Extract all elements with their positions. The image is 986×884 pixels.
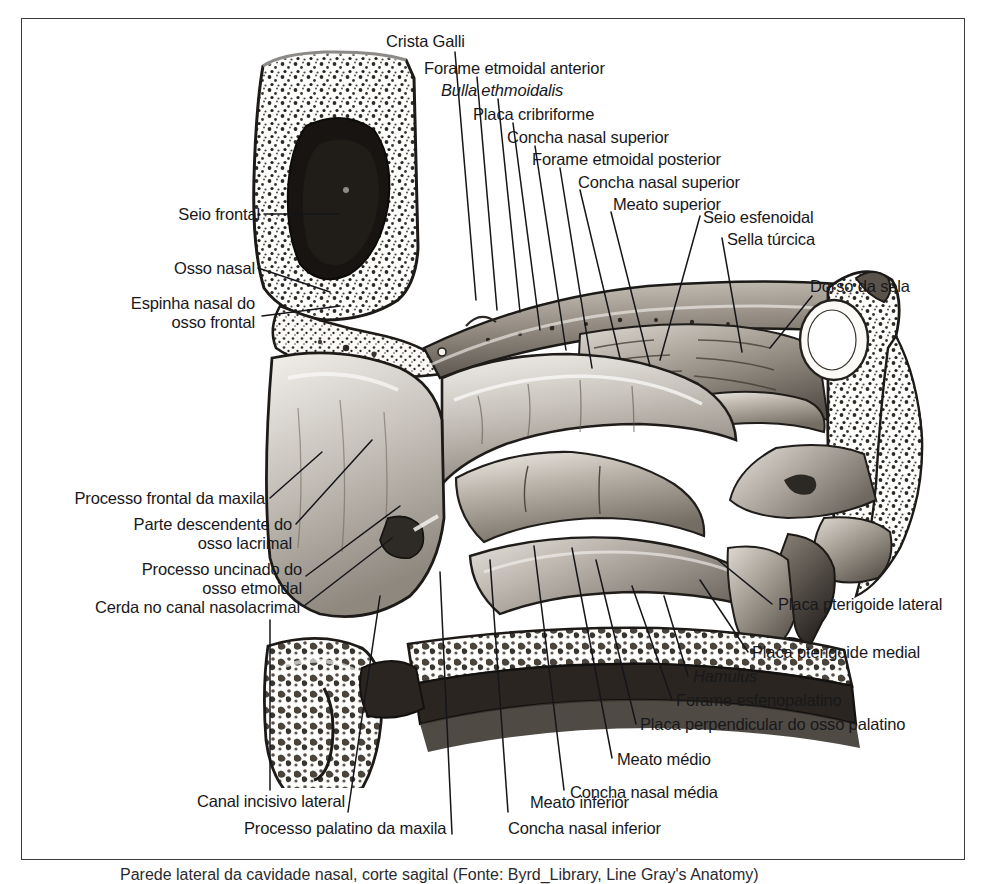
label-dorso-da-sela: Dorso da sela xyxy=(810,277,910,297)
label-forame-esfenopalatino: Forame esfenopalatino xyxy=(676,691,842,711)
label-processo-palatino-da-maxila: Processo palatino da maxila xyxy=(244,819,446,839)
label-espinha-nasal-do-osso-frontal-line1: Espinha nasal do xyxy=(60,294,255,314)
label-osso-nasal: Osso nasal xyxy=(80,259,255,279)
label-meato-inferior: Meato inferior xyxy=(530,793,629,813)
label-meato-medio: Meato médio xyxy=(617,750,711,770)
label-processo-uncinado-osso-etmoidal-line2: osso etmoidal xyxy=(60,579,302,599)
label-parte-descendente-osso-lacrimal-line2: osso lacrimal xyxy=(60,534,292,554)
label-placa-perpendicular-osso-palatino: Placa perpendicular do osso palatino xyxy=(640,715,905,735)
label-placa-cribriforme: Placa cribriforme xyxy=(473,105,594,125)
label-crista-galli: Crista Galli xyxy=(386,32,465,52)
label-cerda-no-canal-nasolacrimal: Cerda no canal nasolacrimal xyxy=(40,598,300,618)
label-processo-uncinado-osso-etmoidal-line1: Processo uncinado do xyxy=(60,560,302,580)
label-seio-esfenoidal: Seio esfenoidal xyxy=(703,208,814,228)
label-bulla-ethmoidalis: Bulla ethmoidalis xyxy=(441,81,563,101)
label-hamulus: Hamulus xyxy=(693,667,757,687)
label-placa-pterigoide-medial: Placa pterigoide medial xyxy=(752,643,920,663)
label-seio-frontal: Seio frontal xyxy=(80,205,260,225)
label-sella-turcica: Sella túrcica xyxy=(727,230,815,250)
label-parte-descendente-osso-lacrimal-line1: Parte descendente do xyxy=(60,515,292,535)
label-concha-nasal-superior-1: Concha nasal superior xyxy=(507,128,669,148)
label-placa-pterigoide-lateral: Placa pterigoide lateral xyxy=(778,595,942,615)
label-concha-nasal-superior-2: Concha nasal superior xyxy=(578,173,740,193)
figure-caption: Parede lateral da cavidade nasal, corte … xyxy=(120,866,920,884)
label-espinha-nasal-do-osso-frontal-line2: osso frontal xyxy=(60,313,255,333)
label-processo-frontal-da-maxila: Processo frontal da maxila xyxy=(40,489,265,509)
anatomy-figure: Crista Galli Forame etmoidal anterior Bu… xyxy=(0,0,986,884)
label-canal-incisivo-lateral: Canal incisivo lateral xyxy=(197,792,345,812)
label-forame-etmoidal-anterior: Forame etmoidal anterior xyxy=(424,59,605,79)
label-concha-nasal-inferior: Concha nasal inferior xyxy=(508,819,661,839)
label-forame-etmoidal-posterior: Forame etmoidal posterior xyxy=(532,150,721,170)
